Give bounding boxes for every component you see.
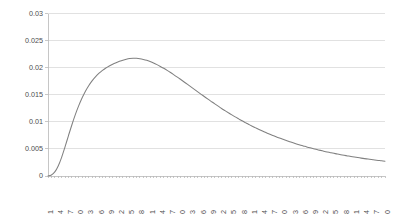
x-tick-label: 73 [291,210,300,214]
x-tick-label: 76 [301,210,310,214]
x-tick-label: 31 [148,210,157,214]
x-tick-label: 64 [260,210,269,214]
x-tick-label: 85 [331,210,340,214]
y-tick-label: 0.03 [29,9,43,18]
x-tick-label: 88 [342,210,351,214]
x-tick-label: 25 [127,210,136,214]
x-tick-label: 34 [158,210,167,214]
x-tick-label: 49 [209,210,218,214]
x-tick-label: 16 [97,210,106,214]
x-tick-label: 37 [168,210,177,214]
y-tick-label: 0.005 [25,144,43,153]
x-tick-label: 52 [219,210,228,214]
plot-background [0,0,400,214]
x-axis-labels: 1471013161922252831343740434649525558616… [46,210,392,214]
x-tick-label: 22 [117,210,126,214]
x-tick-label: 19 [107,210,116,214]
x-tick-label: 4 [56,210,65,214]
x-tick-label: 46 [199,210,208,214]
x-tick-label: 61 [250,210,259,214]
y-tick-label: 0 [39,171,43,180]
chart-container: 00.0050.010.0150.020.0250.03 14710131619… [0,0,400,214]
x-tick-label: 10 [76,210,85,214]
x-tick-label: 13 [86,210,95,214]
x-tick-label: 79 [311,210,320,214]
x-tick-label: 70 [280,210,289,214]
y-tick-label: 0.015 [25,90,43,99]
x-tick-label: 55 [229,210,238,214]
x-tick-label: 67 [270,210,279,214]
x-tick-label: 94 [362,210,371,214]
x-tick-label: 100 [383,210,392,214]
y-tick-label: 0.02 [29,63,43,72]
x-tick-label: 7 [66,210,75,214]
y-tick-label: 0.01 [29,117,43,126]
x-tick-label: 40 [178,210,187,214]
distribution-line-chart: 00.0050.010.0150.020.0250.03 14710131619… [0,0,400,214]
x-tick-label: 28 [137,210,146,214]
x-tick-label: 1 [46,210,55,214]
x-tick-label: 91 [352,210,361,214]
y-tick-label: 0.025 [25,36,43,45]
x-tick-label: 97 [372,210,381,214]
x-tick-label: 58 [240,210,249,214]
x-tick-label: 82 [321,210,330,214]
x-tick-label: 43 [188,210,197,214]
